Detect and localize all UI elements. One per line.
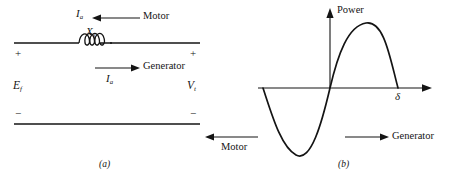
y-axis-label: Power xyxy=(337,5,364,16)
x-axis-arrowhead xyxy=(422,84,432,92)
motor-label-panel-b: Motor xyxy=(221,142,247,153)
panel-b-caption: (b) xyxy=(338,160,349,170)
figure-panel-b: Power δ Motor Generator (b) xyxy=(0,0,449,182)
x-axis-tick-label-delta: δ xyxy=(395,91,400,102)
generator-arrow-icon-panel-b xyxy=(345,134,389,141)
panel-b-graphics xyxy=(0,0,449,182)
y-axis-arrowhead xyxy=(326,8,333,18)
motor-arrow-icon-panel-b xyxy=(205,134,258,141)
generator-label-panel-b: Generator xyxy=(392,131,434,142)
